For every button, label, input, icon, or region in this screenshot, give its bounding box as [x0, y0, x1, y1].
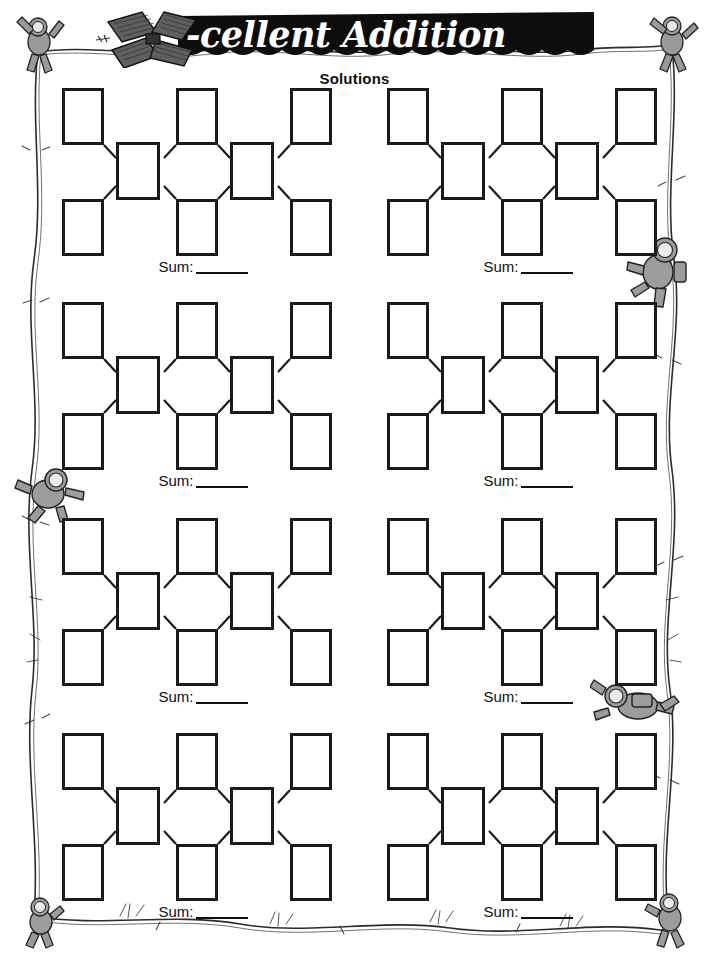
sum-label: Sum: [158, 472, 193, 489]
puzzle-cell-bottom-2[interactable] [176, 199, 218, 256]
puzzle-cell-mid-2[interactable] [230, 356, 274, 414]
puzzle-cell-top-1[interactable] [62, 518, 104, 575]
puzzle-cell-top-3[interactable] [615, 733, 657, 790]
puzzle-cell-top-1[interactable] [62, 302, 104, 359]
puzzle-cell-bottom-2[interactable] [501, 199, 543, 256]
puzzle-cell-bottom-2[interactable] [176, 413, 218, 470]
puzzle-cell-top-2[interactable] [501, 733, 543, 790]
puzzle-cell-bottom-3[interactable] [290, 844, 332, 901]
puzzle-cell-top-3[interactable] [290, 302, 332, 359]
sum-input-blank[interactable] [196, 917, 248, 919]
puzzle-cell-top-2[interactable] [501, 88, 543, 145]
puzzle-cell-top-2[interactable] [176, 302, 218, 359]
puzzle-cell-mid-1[interactable] [116, 356, 160, 414]
puzzle-cell-top-1[interactable] [62, 88, 104, 145]
sum-input-blank[interactable] [196, 486, 248, 488]
puzzle-cell-bottom-2[interactable] [501, 844, 543, 901]
puzzle-cell-bottom-1[interactable] [62, 844, 104, 901]
puzzle-cell-mid-2[interactable] [555, 787, 599, 845]
sum-line: Sum: [58, 258, 348, 275]
puzzle-cell-bottom-3[interactable] [290, 199, 332, 256]
puzzle-cell-bottom-2[interactable] [501, 629, 543, 686]
puzzle-block: Sum: [383, 733, 673, 938]
puzzle-block: Sum: [58, 302, 348, 507]
puzzle-boxes [58, 518, 348, 686]
puzzle-cell-bottom-1[interactable] [62, 413, 104, 470]
satellite-icon [96, 12, 196, 68]
sum-line: Sum: [383, 258, 673, 275]
puzzle-boxes [58, 302, 348, 470]
puzzle-cell-top-1[interactable] [387, 733, 429, 790]
puzzle-cell-mid-2[interactable] [230, 142, 274, 200]
puzzle-cell-mid-1[interactable] [441, 572, 485, 630]
puzzle-cell-bottom-3[interactable] [615, 413, 657, 470]
sum-label: Sum: [158, 903, 193, 920]
sum-label: Sum: [483, 903, 518, 920]
worksheet-header: -cellent Addition Solutions [0, 0, 709, 92]
sum-line: Sum: [58, 472, 348, 489]
puzzle-cell-bottom-2[interactable] [176, 844, 218, 901]
puzzle-cell-top-2[interactable] [176, 88, 218, 145]
puzzle-cell-mid-1[interactable] [441, 356, 485, 414]
sum-line: Sum: [383, 903, 673, 920]
puzzle-boxes [383, 733, 673, 901]
sum-input-blank[interactable] [521, 702, 573, 704]
puzzle-cell-mid-1[interactable] [441, 787, 485, 845]
puzzle-cell-bottom-1[interactable] [62, 199, 104, 256]
puzzle-boxes [383, 302, 673, 470]
puzzle-cell-top-2[interactable] [176, 733, 218, 790]
puzzle-cell-top-1[interactable] [62, 733, 104, 790]
sum-input-blank[interactable] [196, 272, 248, 274]
puzzle-cell-top-3[interactable] [615, 518, 657, 575]
puzzle-cell-mid-2[interactable] [555, 572, 599, 630]
puzzle-cell-bottom-3[interactable] [615, 844, 657, 901]
puzzle-cell-top-1[interactable] [387, 302, 429, 359]
sum-input-blank[interactable] [521, 272, 573, 274]
puzzle-cell-top-1[interactable] [387, 518, 429, 575]
sum-label: Sum: [483, 688, 518, 705]
puzzle-cell-mid-2[interactable] [230, 787, 274, 845]
page-title: -cellent Addition [186, 14, 606, 56]
puzzle-cell-mid-2[interactable] [555, 142, 599, 200]
puzzle-cell-mid-1[interactable] [441, 142, 485, 200]
sum-input-blank[interactable] [521, 486, 573, 488]
puzzle-cell-top-2[interactable] [176, 518, 218, 575]
puzzle-cell-bottom-1[interactable] [387, 413, 429, 470]
puzzle-block: Sum: [383, 518, 673, 723]
sum-label: Sum: [158, 258, 193, 275]
puzzle-cell-top-3[interactable] [615, 88, 657, 145]
puzzle-boxes [383, 88, 673, 256]
puzzle-cell-top-2[interactable] [501, 518, 543, 575]
puzzle-boxes [58, 88, 348, 256]
puzzle-boxes [383, 518, 673, 686]
sum-line: Sum: [58, 688, 348, 705]
puzzle-cell-top-3[interactable] [290, 733, 332, 790]
puzzle-cell-top-2[interactable] [501, 302, 543, 359]
sum-line: Sum: [383, 688, 673, 705]
puzzle-cell-mid-1[interactable] [116, 572, 160, 630]
puzzle-cell-top-3[interactable] [615, 302, 657, 359]
sum-label: Sum: [483, 472, 518, 489]
sum-line: Sum: [383, 472, 673, 489]
puzzle-cell-bottom-2[interactable] [176, 629, 218, 686]
puzzle-cell-bottom-3[interactable] [290, 413, 332, 470]
puzzle-cell-top-3[interactable] [290, 518, 332, 575]
sum-input-blank[interactable] [196, 702, 248, 704]
puzzle-cell-top-1[interactable] [387, 88, 429, 145]
puzzle-cell-bottom-1[interactable] [387, 844, 429, 901]
puzzle-cell-bottom-3[interactable] [615, 199, 657, 256]
puzzle-cell-mid-2[interactable] [555, 356, 599, 414]
puzzle-cell-bottom-1[interactable] [62, 629, 104, 686]
puzzle-cell-bottom-3[interactable] [615, 629, 657, 686]
sum-input-blank[interactable] [521, 917, 573, 919]
puzzle-cell-mid-1[interactable] [116, 142, 160, 200]
puzzle-cell-bottom-1[interactable] [387, 629, 429, 686]
puzzle-cell-bottom-2[interactable] [501, 413, 543, 470]
puzzle-cell-bottom-3[interactable] [290, 629, 332, 686]
puzzle-block: Sum: [58, 518, 348, 723]
puzzle-cell-bottom-1[interactable] [387, 199, 429, 256]
puzzle-cell-top-3[interactable] [290, 88, 332, 145]
puzzle-cell-mid-1[interactable] [116, 787, 160, 845]
puzzle-cell-mid-2[interactable] [230, 572, 274, 630]
worksheet-page: -cellent Addition Solutions [0, 0, 709, 958]
